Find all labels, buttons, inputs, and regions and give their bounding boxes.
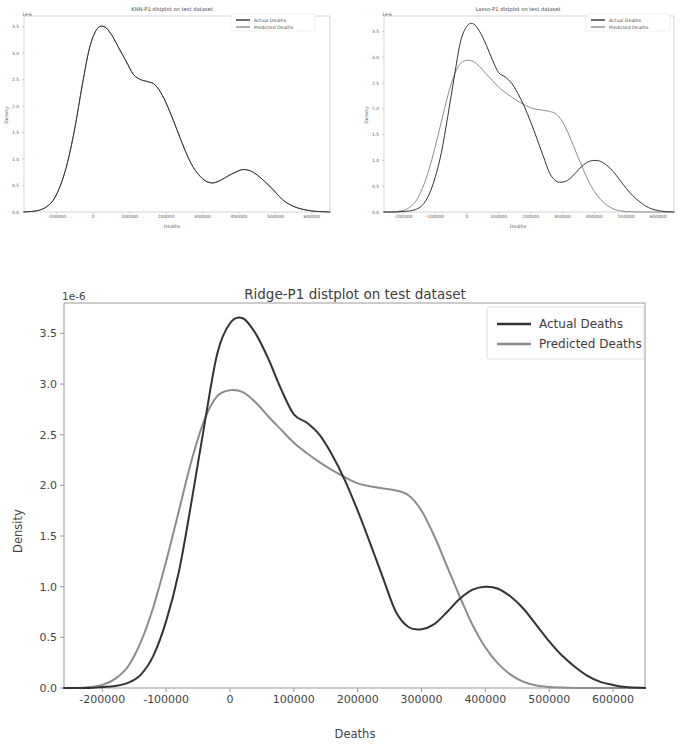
knn-x-tick-label: 100000	[121, 214, 138, 219]
knn-y-tick-label: 2.0	[12, 104, 19, 109]
lasso-legend: Actual Deaths Predicted Deaths	[586, 14, 670, 31]
ridge-y-tick-label: 0.0	[40, 682, 58, 695]
ridge-legend-label-predicted: Predicted Deaths	[539, 337, 642, 351]
ridge-legend-label-actual: Actual Deaths	[539, 317, 623, 331]
knn-x-tick-label: 200000	[158, 214, 175, 219]
figure-knn-p1: KNN-P1 distplot on test dataset 1e-6 -10…	[0, 0, 340, 232]
ridge-x-tick-label: 300000	[401, 693, 443, 706]
knn-x-tick-label: 500000	[267, 214, 284, 219]
knn-chart-title: KNN-P1 distplot on test dataset	[131, 6, 213, 13]
lasso-y-tick-label: 0.5	[372, 184, 379, 189]
lasso-y-tick-label: 3.5	[372, 29, 379, 34]
ridge-x-tick-label: -200000	[79, 693, 125, 706]
ridge-y-axis-label: Density	[11, 509, 25, 553]
knn-y-tick-label: 3.5	[12, 24, 19, 29]
ridge-plot-svg: Ridge-P1 distplot on test dataset 1e-6 -…	[0, 276, 680, 746]
ridge-y-tick-label: 2.5	[40, 429, 58, 442]
knn-y-tick-label: 2.5	[12, 77, 19, 82]
ridge-y-tick-label: 1.0	[40, 581, 58, 594]
ridge-x-axis-label: Deaths	[335, 727, 376, 741]
knn-x-tick-label: 300000	[194, 214, 211, 219]
ridge-x-tick-label: 200000	[337, 693, 379, 706]
ridge-y-offset-label: 1e-6	[62, 290, 86, 302]
knn-x-tick-label: 0	[92, 214, 95, 219]
knn-y-tick-label: 0.5	[12, 183, 19, 188]
lasso-chart-title: Lasso-P1 distplot on test dataset	[475, 6, 560, 13]
lasso-x-tick-label: 400000	[586, 214, 603, 219]
lasso-y-tick-label: 2.5	[372, 81, 379, 86]
knn-legend-label-actual: Actual Deaths	[254, 18, 287, 23]
lasso-x-tick-label: 300000	[554, 214, 571, 219]
ridge-chart-title: Ridge-P1 distplot on test dataset	[244, 286, 466, 302]
knn-x-tick-label: 600000	[303, 214, 320, 219]
lasso-y-tick-label: 3.0	[372, 55, 379, 60]
knn-x-axis-label: Deaths	[164, 224, 181, 229]
ridge-x-tick-label: 0	[227, 693, 234, 706]
knn-canvas-background	[0, 0, 340, 232]
knn-y-tick-label: 0.0	[12, 210, 19, 215]
knn-x-tick-label: 400000	[231, 214, 248, 219]
lasso-y-tick-label: 2.0	[372, 106, 379, 111]
lasso-x-axis-label: Deaths	[510, 224, 527, 229]
knn-legend: Actual Deaths Predicted Deaths	[231, 14, 315, 31]
ridge-x-tick-label: 500000	[528, 693, 570, 706]
lasso-y-tick-label: 1.5	[372, 132, 379, 137]
lasso-y-axis-label: Density	[364, 106, 369, 124]
knn-y-tick-label: 1.5	[12, 130, 19, 135]
lasso-plot-svg: Lasso-P1 distplot on test dataset 1e-6 -…	[340, 0, 680, 232]
ridge-legend-box	[487, 307, 644, 359]
knn-x-tick-label: -100000	[48, 214, 67, 219]
ridge-y-tick-label: 3.0	[40, 378, 58, 391]
figure-ridge-p1: Ridge-P1 distplot on test dataset 1e-6 -…	[0, 276, 680, 746]
knn-legend-label-predicted: Predicted Deaths	[254, 25, 294, 30]
ridge-x-tick-label: 100000	[273, 693, 315, 706]
figure-lasso-p1: Lasso-P1 distplot on test dataset 1e-6 -…	[340, 0, 680, 232]
ridge-y-tick-label: 3.5	[40, 327, 58, 340]
lasso-x-tick-label: 200000	[522, 214, 539, 219]
ridge-y-tick-label: 0.5	[40, 631, 58, 644]
ridge-x-tick-label: -100000	[143, 693, 189, 706]
lasso-legend-label-predicted: Predicted Deaths	[609, 25, 649, 30]
lasso-x-tick-label: 500000	[618, 214, 635, 219]
knn-plot-svg: KNN-P1 distplot on test dataset 1e-6 -10…	[0, 0, 340, 232]
lasso-x-tick-label: -200000	[394, 214, 413, 219]
ridge-x-tick-label: 600000	[592, 693, 634, 706]
knn-y-tick-label: 3.0	[12, 51, 19, 56]
lasso-y-tick-label: 1.0	[372, 158, 379, 163]
knn-y-tick-label: 1.0	[12, 157, 19, 162]
knn-y-axis-label: Density	[4, 106, 9, 124]
lasso-legend-label-actual: Actual Deaths	[609, 18, 642, 23]
ridge-x-tick-label: 400000	[464, 693, 506, 706]
lasso-x-tick-label: 600000	[650, 214, 667, 219]
lasso-x-tick-label: -100000	[426, 214, 445, 219]
ridge-legend: Actual Deaths Predicted Deaths	[487, 307, 644, 359]
lasso-x-tick-label: 0	[465, 214, 468, 219]
ridge-y-tick-label: 1.5	[40, 530, 58, 543]
lasso-y-tick-label: 0.0	[372, 210, 379, 215]
lasso-x-tick-label: 100000	[490, 214, 507, 219]
lasso-canvas-background	[340, 0, 680, 232]
ridge-y-tick-label: 2.0	[40, 479, 58, 492]
